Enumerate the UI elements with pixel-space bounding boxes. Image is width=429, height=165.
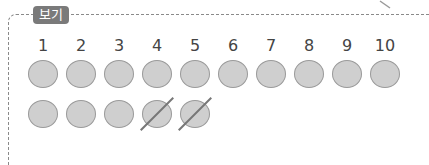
- coin-icon: [142, 60, 172, 88]
- coin-icon: [370, 60, 400, 88]
- number-label: 3: [104, 36, 134, 55]
- coin-icon: [104, 60, 134, 88]
- number-label: 8: [294, 36, 324, 55]
- coin-icon: [66, 100, 96, 128]
- coin-icon: [180, 60, 210, 88]
- number-label: 10: [370, 36, 400, 55]
- number-label: 5: [180, 36, 210, 55]
- coin-icon: [256, 60, 286, 88]
- coin-icon: [28, 100, 58, 128]
- number-label: 6: [218, 36, 248, 55]
- corner-line-decoration: [378, 0, 398, 10]
- coin-icon: [332, 60, 362, 88]
- coin-icon: [218, 60, 248, 88]
- coin-icon: [66, 60, 96, 88]
- coin-icon: [104, 100, 134, 128]
- number-label: 7: [256, 36, 286, 55]
- number-label: 4: [142, 36, 172, 55]
- number-label: 9: [332, 36, 362, 55]
- number-label: 2: [66, 36, 96, 55]
- example-label: 보기: [33, 6, 69, 24]
- coin-icon: [294, 60, 324, 88]
- coin-icon: [28, 60, 58, 88]
- number-label: 1: [28, 36, 58, 55]
